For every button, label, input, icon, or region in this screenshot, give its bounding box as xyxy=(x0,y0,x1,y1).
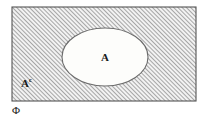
universe-label-phi: Φ xyxy=(12,104,20,116)
venn-diagram-svg: A A c Φ xyxy=(0,0,208,118)
complement-label-base: A xyxy=(21,77,29,89)
complement-label-superscript: c xyxy=(29,77,32,83)
set-diagram-container: A A c Φ xyxy=(0,0,208,118)
set-a-label: A xyxy=(101,51,109,63)
